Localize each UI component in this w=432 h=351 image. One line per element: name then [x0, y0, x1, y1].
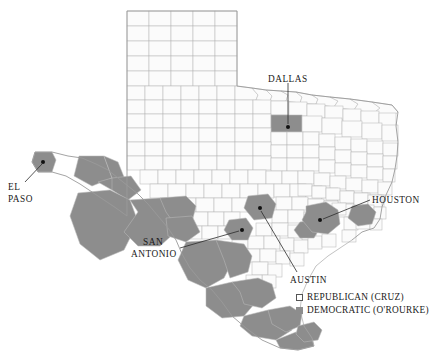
city-label-san-antonio-line1: SAN [143, 237, 163, 247]
panhandle-counties [127, 11, 237, 86]
city-dot-houston [318, 218, 322, 222]
city-label-san-antonio-line2: ANTONIO [131, 249, 177, 259]
city-dot-el-paso [41, 160, 45, 164]
city-dot-san-antonio [240, 228, 244, 232]
legend-item-democratic: DEMOCRATIC (O'ROURKE) [296, 304, 429, 316]
city-dot-dallas [286, 125, 290, 129]
city-label-houston: HOUSTON [372, 195, 420, 205]
city-dot-austin [258, 206, 262, 210]
legend-label-democratic: DEMOCRATIC (O'ROURKE) [307, 305, 429, 315]
legend-swatch-democratic-icon [296, 307, 303, 314]
county-dallas [271, 115, 302, 132]
city-label-el-paso-line1: EL [8, 182, 20, 192]
city-label-dallas: DALLAS [268, 74, 308, 84]
city-label-austin: AUSTIN [290, 275, 327, 285]
legend-label-republican: REPUBLICAN (CRUZ) [307, 292, 404, 302]
city-label-el-paso-line2: PASO [8, 194, 33, 204]
map-legend: REPUBLICAN (CRUZ) DEMOCRATIC (O'ROURKE) [296, 291, 429, 317]
legend-swatch-republican-icon [296, 294, 303, 301]
legend-item-republican: REPUBLICAN (CRUZ) [296, 291, 429, 303]
leader-el-paso [25, 164, 42, 182]
